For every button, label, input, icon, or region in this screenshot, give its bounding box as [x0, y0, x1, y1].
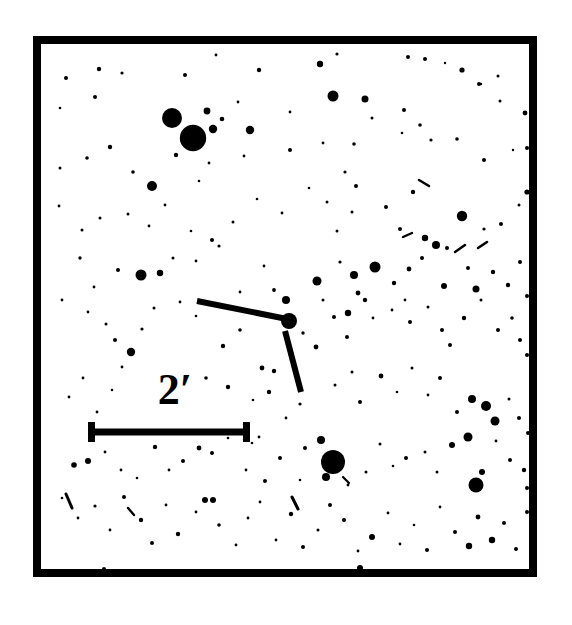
star-point	[301, 331, 304, 334]
star-point	[227, 437, 230, 440]
star-point	[237, 101, 240, 104]
star-point	[424, 451, 427, 454]
star-point	[64, 76, 68, 80]
star-point	[328, 91, 339, 102]
star-point	[210, 238, 214, 242]
star-point	[518, 260, 522, 264]
star-point	[512, 149, 514, 151]
star-point	[491, 417, 500, 426]
star-point	[391, 309, 394, 312]
star-point	[466, 543, 472, 549]
star-point	[243, 155, 246, 158]
star-point	[299, 479, 302, 482]
star-point	[429, 138, 432, 141]
star-point	[317, 61, 323, 67]
star-point	[116, 268, 120, 272]
star-point	[345, 335, 349, 339]
star-point	[425, 548, 429, 552]
star-point	[464, 433, 473, 442]
star-point	[480, 83, 482, 85]
star-point	[136, 477, 139, 480]
star-point	[148, 225, 151, 228]
star-point	[526, 431, 530, 435]
star-point	[122, 495, 126, 499]
star-point	[96, 411, 99, 414]
star-point	[59, 167, 62, 170]
star-point	[491, 270, 495, 274]
star-point	[209, 125, 217, 133]
star-point	[482, 158, 486, 162]
star-point	[525, 510, 529, 514]
star-point	[120, 469, 123, 472]
star-point	[525, 353, 529, 357]
star-point	[370, 262, 381, 273]
star-point	[246, 126, 254, 134]
star-point	[61, 497, 64, 500]
star-point	[392, 281, 396, 285]
star-point	[108, 145, 112, 149]
star-point	[404, 456, 408, 460]
star-point	[215, 54, 218, 57]
star-point	[497, 75, 500, 78]
star-point	[334, 384, 337, 387]
star-point	[208, 162, 211, 165]
star-point	[99, 217, 102, 220]
star-point	[162, 108, 182, 128]
star-point	[93, 286, 96, 289]
star-point	[357, 550, 360, 553]
star-point	[502, 521, 506, 525]
star-point	[275, 539, 278, 542]
star-point	[506, 283, 510, 287]
star-point	[157, 270, 163, 276]
star-point	[436, 471, 439, 474]
star-point	[85, 458, 91, 464]
star-point	[411, 367, 414, 370]
star-point	[226, 385, 230, 389]
star-point	[303, 446, 307, 450]
star-point	[365, 471, 368, 474]
star-point	[468, 395, 476, 403]
star-point	[174, 153, 178, 157]
star-point	[508, 458, 512, 462]
star-point	[267, 390, 271, 394]
star-point	[259, 501, 262, 504]
star-point	[172, 257, 175, 260]
star-point	[418, 123, 422, 127]
star-point	[449, 442, 455, 448]
star-point	[398, 227, 402, 231]
star-point	[399, 543, 402, 546]
star-point	[523, 111, 528, 116]
star-point	[441, 283, 447, 289]
star-point	[469, 478, 484, 493]
star-point	[111, 389, 114, 392]
star-point	[235, 544, 238, 547]
star-point	[514, 547, 518, 551]
star-point	[362, 96, 369, 103]
star-point	[525, 294, 529, 298]
star-point	[127, 213, 130, 216]
star-point	[252, 399, 255, 402]
scale-bar-cap-right	[243, 422, 250, 442]
star-point	[85, 156, 89, 160]
star-point	[102, 567, 106, 571]
star-point	[322, 142, 325, 145]
star-point	[440, 328, 444, 332]
star-point	[444, 62, 446, 64]
star-point	[445, 246, 449, 250]
star-point	[406, 55, 410, 59]
star-point	[263, 479, 267, 483]
star-point	[256, 198, 259, 201]
star-point	[272, 369, 276, 373]
star-point	[518, 338, 522, 342]
star-point	[379, 374, 384, 379]
star-point	[93, 95, 97, 99]
star-point	[181, 459, 185, 463]
star-point	[321, 450, 345, 474]
star-point	[508, 398, 511, 401]
star-point	[326, 201, 329, 204]
star-point	[392, 465, 395, 468]
star-point	[198, 180, 201, 183]
star-point	[455, 410, 459, 414]
star-point	[97, 67, 101, 71]
star-point	[432, 241, 440, 249]
